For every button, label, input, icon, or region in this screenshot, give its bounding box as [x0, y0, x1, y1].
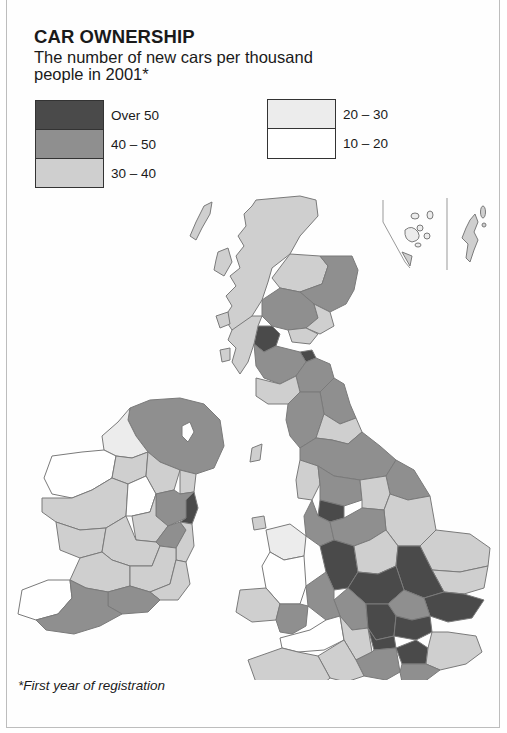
legend-swatch-20-30 [268, 100, 335, 129]
inset-orkney [383, 200, 433, 268]
region-london [394, 616, 432, 640]
legend-label-30-40: 30 – 40 [111, 166, 156, 181]
region-devon [248, 648, 330, 680]
legend-swatch-group-left [35, 100, 104, 188]
region-kent [426, 632, 482, 670]
legend-swatch-40-50 [36, 130, 103, 159]
inset-shetland [462, 206, 486, 262]
region-mull [216, 312, 230, 328]
map-title: CAR OWNERSHIP [34, 26, 195, 48]
region-louth [180, 470, 196, 494]
region-lancashire [296, 460, 320, 500]
footnote: *First year of registration [18, 678, 165, 693]
region-islay [220, 348, 230, 362]
region-east-yorkshire [386, 460, 430, 500]
region-western-isles [190, 202, 212, 240]
region-surrey [396, 640, 428, 664]
region-essex [424, 592, 484, 622]
legend-swatch-group-right [267, 99, 336, 159]
region-south-wales [276, 604, 308, 634]
region-anglesey [252, 516, 266, 530]
legend-swatch-30-40 [36, 159, 103, 187]
legend-label-over-50: Over 50 [111, 108, 159, 123]
region-skye [214, 248, 232, 276]
british-isles-map [0, 190, 507, 680]
map-subtitle: The number of new cars per thousand peop… [34, 49, 334, 83]
legend-swatch-10-20 [268, 129, 335, 158]
legend-swatch-over-50 [36, 101, 103, 130]
legend-label-40-50: 40 – 50 [111, 137, 156, 152]
legend-label-20-30: 20 – 30 [343, 107, 388, 122]
legend-label-10-20: 10 – 20 [343, 136, 388, 151]
footnote-text: *First year of registration [18, 678, 165, 693]
region-isle-of-man [250, 444, 262, 462]
region-norfolk [420, 530, 490, 572]
